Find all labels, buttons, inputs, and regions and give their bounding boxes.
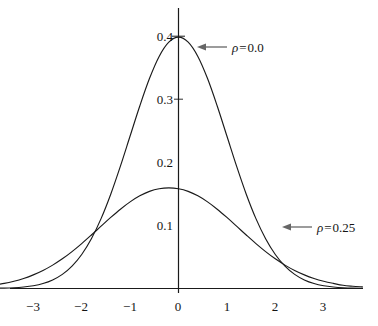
x-tick-label-4: 1 <box>224 300 231 313</box>
chart-figure: 0.4 0.3 0.2 0.1 −3 −2 −1 0 1 2 3 ρ=0.0 ρ… <box>0 0 378 326</box>
x-tick-label-5: 2 <box>272 300 279 313</box>
x-tick-label-6: 3 <box>320 300 327 313</box>
x-tick-label-1: −2 <box>74 300 88 313</box>
annotation-arrow-rho-025 <box>282 223 312 230</box>
annotation-label-rho-0: ρ=0.0 <box>232 41 264 54</box>
plot-canvas <box>0 0 378 326</box>
equals-sign-0: = <box>238 40 247 55</box>
y-tick-label-0: 0.4 <box>157 30 173 43</box>
rho-value-1: 0.25 <box>333 220 356 235</box>
equals-sign-1: = <box>323 220 332 235</box>
y-tick-label-2: 0.2 <box>157 156 173 169</box>
curve-rho-025 <box>0 188 362 287</box>
y-tick-label-1: 0.3 <box>157 93 173 106</box>
annotation-arrow-rho-0 <box>197 43 227 50</box>
rho-value-0: 0.0 <box>248 40 264 55</box>
y-tick-label-3: 0.1 <box>157 219 173 232</box>
x-tick-label-2: −1 <box>123 300 137 313</box>
annotation-label-rho-025: ρ=0.25 <box>317 221 355 234</box>
x-tick-label-0: −3 <box>26 300 40 313</box>
x-tick-label-3: 0 <box>175 300 182 313</box>
curve-rho-0 <box>0 37 362 288</box>
